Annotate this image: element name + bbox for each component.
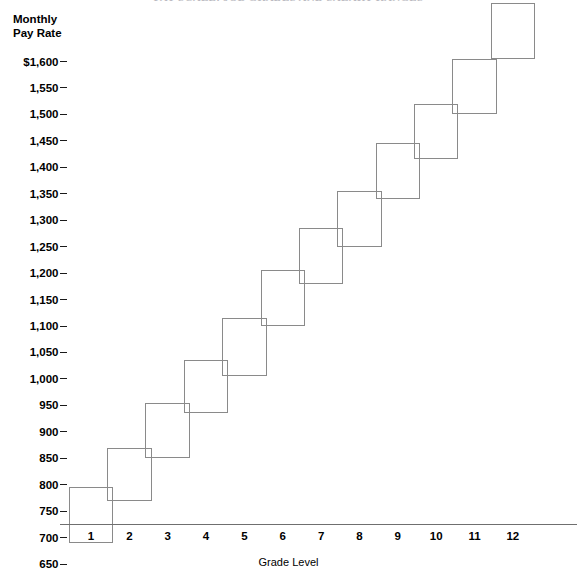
x-tick-label-grade-8: 8 — [356, 530, 362, 542]
x-tick-label-grade-11: 11 — [468, 530, 480, 542]
x-tick-label-grade-12: 12 — [506, 530, 519, 542]
x-tick-label-grade-1: 1 — [88, 530, 94, 542]
x-tick-label-grade-9: 9 — [395, 530, 401, 542]
x-tick-label-grade-3: 3 — [164, 530, 170, 542]
x-axis-ticks: 123456789101112 — [0, 0, 577, 575]
x-tick-label-grade-7: 7 — [318, 530, 324, 542]
pay-scale-chart: PAY SCALE: JOB GRADES AND SALARY RANGES … — [0, 0, 577, 575]
x-tick-label-grade-4: 4 — [203, 530, 209, 542]
x-axis-title: Grade Level — [0, 556, 577, 568]
x-tick-label-grade-10: 10 — [430, 530, 443, 542]
x-tick-label-grade-6: 6 — [280, 530, 286, 542]
x-tick-label-grade-5: 5 — [241, 530, 247, 542]
x-tick-label-grade-2: 2 — [126, 530, 132, 542]
